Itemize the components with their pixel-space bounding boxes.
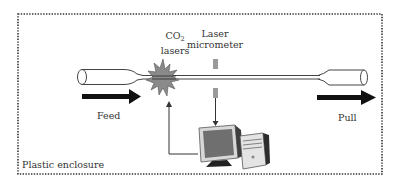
computer-tower-icon (240, 133, 270, 169)
feedback-line (169, 106, 198, 154)
micrometer-emitter-icon (213, 59, 218, 69)
plastic-enclosure-label: Plastic enclosure (22, 159, 104, 170)
feed-label: Feed (97, 110, 120, 121)
laser-micrometer-label: Laser micrometer (185, 28, 245, 50)
pull-arrow-icon (317, 90, 376, 105)
preform-right (318, 70, 368, 85)
pull-label: Pull (338, 112, 357, 123)
co2-text: CO (165, 30, 180, 41)
laser-text: Laser (185, 28, 245, 39)
computer-monitor-icon (199, 125, 243, 167)
signal-arrow-down-icon (213, 121, 219, 126)
micrometer-text: micrometer (185, 39, 245, 50)
co2-subscript: 2 (180, 35, 184, 43)
micrometer-receiver-icon (213, 88, 218, 98)
preform-left (78, 70, 144, 85)
feedback-arrow-up-icon (166, 101, 172, 107)
co2-laser-burst-icon (146, 59, 179, 96)
fiber-drawing-diagram: CO2 lasers Laser micrometer Feed Pull Pl… (0, 0, 398, 187)
feed-arrow-icon (82, 89, 141, 104)
